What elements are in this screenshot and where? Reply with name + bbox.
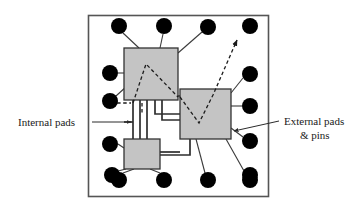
pad-right-3[interactable] <box>242 133 258 149</box>
pad-bottom-4[interactable] <box>242 172 258 188</box>
external-pads-label-line2: & pins <box>300 129 330 141</box>
pad-top-1[interactable] <box>111 18 127 34</box>
external-pads-label-line1: External pads <box>284 115 344 127</box>
pad-top-2[interactable] <box>156 18 172 34</box>
pad-right-1[interactable] <box>242 66 258 82</box>
pad-left-3[interactable] <box>102 136 118 152</box>
mcm-pad-layout-diagram: Internal pads External pads & pins <box>0 0 358 204</box>
internal-pads-label: Internal pads <box>18 116 75 128</box>
pad-bottom-3[interactable] <box>200 172 216 188</box>
die-bottom-left[interactable] <box>124 139 160 169</box>
pad-right-2[interactable] <box>242 98 258 114</box>
die-top-left[interactable] <box>124 48 178 100</box>
pad-left-1[interactable] <box>102 65 118 81</box>
pad-bottom-1[interactable] <box>111 172 127 188</box>
die-right[interactable] <box>180 89 231 139</box>
pad-top-3[interactable] <box>200 19 216 35</box>
pad-top-4[interactable] <box>242 18 258 34</box>
pad-bottom-2[interactable] <box>156 172 172 188</box>
pad-left-2[interactable] <box>102 93 118 109</box>
